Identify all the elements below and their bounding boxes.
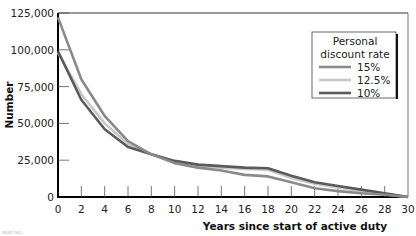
- x-tick-label: 16: [238, 203, 252, 215]
- x-tick-label: 4: [101, 203, 108, 215]
- x-axis-title: Years since start of active duty: [202, 220, 387, 232]
- legend-title-line1: Personal: [333, 35, 378, 47]
- x-tick-label: 6: [125, 203, 132, 215]
- y-tick-label: 75,000: [17, 81, 54, 93]
- x-tick-label: 26: [355, 203, 369, 215]
- x-tick-label: 22: [308, 203, 321, 215]
- y-tick-label: 125,000: [11, 7, 54, 19]
- legend-entry-label: 10%: [357, 87, 380, 99]
- y-tick-label: 25,000: [17, 154, 54, 166]
- x-tick-label: 30: [401, 203, 414, 215]
- legend: Personal discount rate 15%12.5%10%: [312, 32, 397, 99]
- x-tick-label: 14: [215, 203, 229, 215]
- x-tick-label: 20: [285, 203, 298, 215]
- y-axis: 025,00050,00075,000100,000125,000: [11, 7, 69, 203]
- x-tick-label: 10: [168, 203, 181, 215]
- legend-entry-label: 15%: [357, 61, 380, 73]
- x-tick-label: 0: [55, 203, 62, 215]
- y-axis-title: Number: [3, 81, 15, 129]
- x-tick-label: 8: [148, 203, 155, 215]
- source-note: RAND MG...: [2, 230, 25, 235]
- y-tick-label: 100,000: [11, 44, 54, 56]
- legend-title-line2: discount rate: [320, 48, 389, 60]
- y-tick-label: 0: [47, 191, 54, 203]
- y-tick-label: 50,000: [17, 117, 54, 129]
- x-tick-label: 18: [261, 203, 274, 215]
- x-tick-label: 2: [78, 203, 85, 215]
- x-tick-label: 28: [378, 203, 391, 215]
- x-tick-label: 24: [331, 203, 345, 215]
- line-chart: 025,00050,00075,000100,000125,000 024681…: [0, 0, 416, 236]
- legend-entry-label: 12.5%: [357, 74, 390, 86]
- x-tick-label: 12: [191, 203, 204, 215]
